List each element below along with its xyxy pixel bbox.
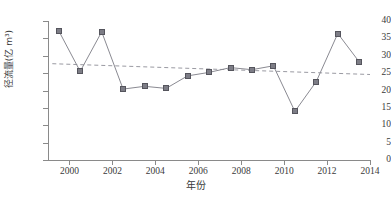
data-point-marker <box>99 29 105 35</box>
runoff-line-chart: 0510152025303540 20002002200420062008201… <box>0 0 391 200</box>
data-point-marker <box>249 67 255 73</box>
data-point-marker <box>206 69 212 75</box>
data-point-marker <box>77 68 83 74</box>
data-point-marker <box>56 28 62 34</box>
x-axis-title: 年份 <box>0 180 391 191</box>
data-point-marker <box>313 79 319 85</box>
data-point-marker <box>292 108 298 114</box>
data-point-marker <box>120 86 126 92</box>
data-point-marker <box>270 63 276 69</box>
data-point-marker <box>356 59 362 65</box>
y-axis-title: 径流量(亿 m³) <box>4 0 14 119</box>
data-point-marker <box>228 65 234 71</box>
data-point-marker <box>163 85 169 91</box>
data-point-marker <box>335 31 341 37</box>
data-point-marker <box>185 73 191 79</box>
data-point-marker <box>142 83 148 89</box>
